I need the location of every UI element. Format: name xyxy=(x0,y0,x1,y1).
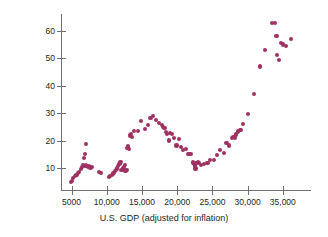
y-axis-tick xyxy=(57,168,66,169)
data-point xyxy=(273,21,277,25)
y-axis-tick xyxy=(57,141,66,142)
y-axis-tick xyxy=(57,31,66,32)
data-point xyxy=(143,127,147,131)
data-point xyxy=(130,135,134,139)
x-axis-tick xyxy=(248,186,249,195)
x-axis-tick xyxy=(212,186,213,195)
data-point xyxy=(238,128,242,132)
data-point xyxy=(118,160,122,164)
plot-area: 102030405060 500010,00015,00020,00025,00… xyxy=(61,14,311,190)
data-point xyxy=(222,151,226,155)
data-point xyxy=(83,152,87,156)
data-point xyxy=(227,143,231,147)
data-point xyxy=(193,166,197,170)
x-axis-line xyxy=(61,190,311,191)
y-axis-line xyxy=(61,14,62,190)
x-axis-tick-label: 15,000 xyxy=(129,198,155,207)
data-point xyxy=(252,92,256,96)
x-axis-tick xyxy=(107,186,108,195)
x-axis-tick xyxy=(177,186,178,195)
data-point xyxy=(99,171,103,175)
data-point xyxy=(215,153,219,157)
data-point xyxy=(177,137,181,141)
data-point xyxy=(212,158,216,162)
x-axis-tick-label: 10,000 xyxy=(94,198,120,207)
data-point xyxy=(124,168,128,172)
data-point xyxy=(84,142,88,146)
y-axis-tick-label: 50 xyxy=(46,54,55,63)
data-point xyxy=(274,34,278,38)
data-point xyxy=(82,156,86,160)
y-axis-tick-label: 30 xyxy=(46,109,55,118)
data-point xyxy=(284,44,288,48)
x-axis-tick xyxy=(72,186,73,195)
data-point xyxy=(277,58,281,62)
data-point xyxy=(184,147,188,151)
y-axis-tick xyxy=(57,58,66,59)
data-point xyxy=(174,143,178,147)
data-point xyxy=(241,122,245,126)
data-point xyxy=(233,136,237,140)
data-point xyxy=(289,37,293,41)
x-axis-tick-label: 35,000 xyxy=(270,198,296,207)
data-point xyxy=(90,165,94,169)
data-point xyxy=(246,112,250,116)
data-point xyxy=(258,64,262,68)
data-point xyxy=(136,129,140,133)
y-axis-tick-label: 60 xyxy=(46,26,55,35)
x-axis-tick-label: 30,000 xyxy=(235,198,261,207)
y-axis-tick-label: 20 xyxy=(46,136,55,145)
data-point xyxy=(172,136,176,140)
scatter-plot-figure: 102030405060 500010,00015,00020,00025,00… xyxy=(0,0,328,237)
x-axis-tick-label: 25,000 xyxy=(199,198,225,207)
y-axis-tick-label: 10 xyxy=(46,164,55,173)
data-point xyxy=(139,119,143,123)
data-point xyxy=(167,138,171,142)
x-axis-tick xyxy=(283,186,284,195)
data-point xyxy=(123,163,127,167)
y-axis-tick xyxy=(57,113,66,114)
data-point xyxy=(127,147,131,151)
x-axis-tick-label: 5000 xyxy=(62,198,81,207)
data-point xyxy=(275,53,279,57)
data-point xyxy=(263,48,267,52)
data-point xyxy=(146,123,150,127)
x-axis-tick xyxy=(142,186,143,195)
y-axis-tick xyxy=(57,86,66,87)
data-point xyxy=(188,152,192,156)
y-axis-tick-label: 40 xyxy=(46,81,55,90)
x-axis-title: U.S. GDP (adjusted for inflation) xyxy=(0,214,328,224)
x-axis-tick-label: 20,000 xyxy=(164,198,190,207)
